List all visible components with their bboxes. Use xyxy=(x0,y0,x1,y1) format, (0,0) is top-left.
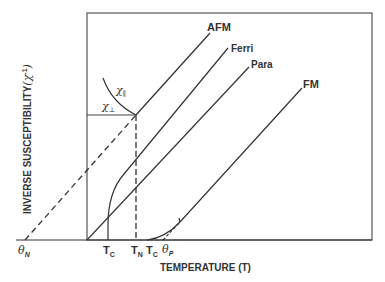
y-axis-label: INVERSE SUSCEPTIBILITY(χ-1) xyxy=(21,64,34,214)
plot-frame xyxy=(87,13,372,240)
fm-tick-mark xyxy=(179,218,180,222)
afm-line xyxy=(136,33,210,115)
label-chi-parallel: χ∥ xyxy=(115,84,126,98)
label-tn: TN xyxy=(131,244,143,258)
label-para: Para xyxy=(251,59,273,70)
label-theta-p: θP xyxy=(162,243,174,257)
susceptibility-diagram: AFM Ferri Para FM χ∥ χ⊥ θN TC TN TC θP T… xyxy=(0,0,385,282)
label-chi-perp: χ⊥ xyxy=(101,100,115,114)
label-fm: FM xyxy=(303,78,319,90)
x-axis-label: TEMPERATURE (T) xyxy=(160,262,251,273)
ferri-curve xyxy=(108,48,228,240)
label-afm: AFM xyxy=(207,21,231,33)
para-line xyxy=(87,67,249,240)
label-tc-fm: TC xyxy=(146,244,158,258)
fm-curve xyxy=(147,88,302,240)
afm-extrapolation-dashed xyxy=(25,115,136,240)
label-ferri: Ferri xyxy=(231,43,253,54)
label-theta-n: θN xyxy=(18,244,31,258)
label-tc-ferri: TC xyxy=(103,244,115,258)
fm-extrapolation-dashed xyxy=(163,222,180,240)
